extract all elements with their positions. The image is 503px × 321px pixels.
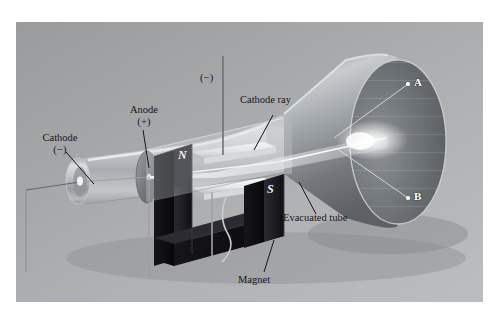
label-evacuated-tube: Evacuated tube [283,212,347,224]
label-magnet: Magnet [238,274,270,286]
cathode-ray-tube-illustration [16,22,483,302]
magnet-north-pole-letter: N [178,148,187,163]
screen-point-b-label: B [414,190,421,202]
label-anode-sign: (+) [108,116,180,128]
screen-point-a-label: A [414,76,422,88]
label-terminal-positive: (+) [189,244,203,256]
diagram-plate: Cathode (−) Anode (+) Cathode ray Evacua… [16,22,483,302]
figure-root: Cathode (−) Anode (+) Cathode ray Evacua… [0,0,503,321]
label-cathode-name: Cathode [22,132,98,144]
label-terminal-negative: (−) [200,72,214,84]
label-cathode-ray: Cathode ray [240,94,291,106]
label-anode: Anode (+) [108,104,180,128]
magnet-south-pole-letter: S [267,182,274,197]
label-cathode-sign: (−) [22,144,98,156]
label-anode-name: Anode [108,104,180,116]
label-cathode: Cathode (−) [22,132,98,156]
